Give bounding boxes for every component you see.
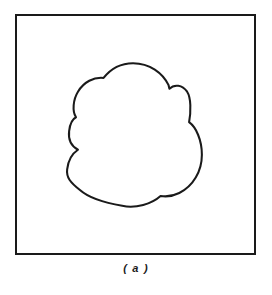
cloud-blob-canvas <box>17 16 254 253</box>
cloud-blob-outline-icon <box>67 63 202 206</box>
figure-caption: ( a ) <box>0 262 272 274</box>
figure-panel <box>15 14 256 255</box>
